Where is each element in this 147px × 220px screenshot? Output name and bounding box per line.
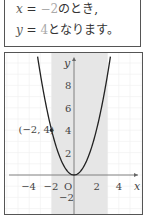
x-value: −2 xyxy=(40,2,58,16)
y-tick-label: 6 xyxy=(65,103,71,114)
y-value: 4 xyxy=(40,23,48,37)
point-label: (−2, 4) xyxy=(19,124,54,135)
explanation-line-1: x = −2のとき, xyxy=(16,0,98,16)
x-tick-label: 4 xyxy=(116,181,122,192)
y-tick-label: 2 xyxy=(65,148,71,159)
x-tick-label: −2 xyxy=(44,181,59,192)
equals-sign: = xyxy=(23,23,41,37)
line2-suffix: となります。 xyxy=(48,23,119,37)
y-tick-label: 8 xyxy=(65,80,71,91)
explanation-line-2: y = 4となります。 xyxy=(16,20,119,37)
x-axis-label: x xyxy=(134,180,141,193)
x-tick-label: O xyxy=(64,181,72,192)
explanation-box: x = −2のとき, y = 4となります。 xyxy=(4,0,141,47)
equals-sign: = xyxy=(23,2,41,16)
y-axis-label: y xyxy=(63,57,71,70)
x-tick-label: 2 xyxy=(93,181,99,192)
graph-box: xy−4−2O24−22468(−2, 4) xyxy=(4,52,143,215)
y-tick-label: −2 xyxy=(59,192,74,203)
x-axis-arrow-icon xyxy=(134,173,138,177)
x-tick-label: −4 xyxy=(21,181,36,192)
var-x: x xyxy=(16,2,23,16)
line1-suffix: のとき, xyxy=(58,2,98,16)
var-y: y xyxy=(16,23,23,37)
y-tick-label: 4 xyxy=(65,125,71,136)
parabola-chart: xy−4−2O24−22468(−2, 4) xyxy=(5,53,142,214)
